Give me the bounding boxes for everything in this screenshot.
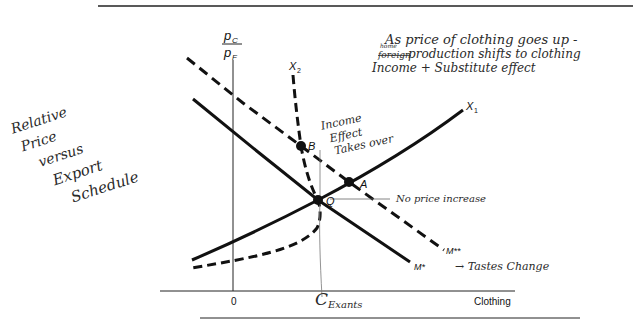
point-a — [344, 177, 354, 187]
svg-text:1: 1 — [474, 107, 478, 114]
y-axis-label: p C p F — [222, 28, 242, 62]
svg-text:C: C — [315, 289, 328, 309]
point-b — [296, 141, 306, 151]
point-a-label: A — [359, 178, 367, 190]
svg-text:Income + Substitute effect: Income + Substitute effect — [371, 61, 536, 75]
x2-label: X — [288, 60, 297, 72]
x2-curve — [192, 75, 320, 268]
svg-text:Exants: Exants — [327, 299, 363, 310]
x1-label: X — [465, 100, 474, 112]
top-handwritten-note: As price of clothing goes up - home fore… — [371, 32, 581, 75]
diagram-canvas: p C p F 0 Clothing B A Q X 2 X 1 M** M* … — [0, 0, 633, 330]
m-star-label: M* — [414, 262, 425, 272]
point-b-label: B — [308, 140, 315, 152]
point-q-label: Q — [326, 195, 335, 207]
svg-text:foreign: foreign — [377, 50, 411, 60]
x-axis-label: Clothing — [474, 296, 511, 307]
m-double-star-curve — [187, 58, 444, 250]
svg-text:home: home — [380, 42, 397, 49]
tastes-change-note: → Tastes Change — [455, 260, 550, 273]
svg-text:As price of clothing goes up -: As price of clothing goes up - — [384, 32, 577, 47]
svg-text:F: F — [232, 53, 238, 62]
no-price-increase-note: No price increase — [395, 193, 486, 204]
income-effect-note: Income Effect Takes over — [319, 106, 395, 160]
svg-text:2: 2 — [297, 67, 301, 74]
m-double-star-label: M** — [446, 246, 461, 256]
m-star-curve — [193, 99, 410, 262]
svg-text:p: p — [223, 45, 231, 60]
left-handwritten-note: Relative Price versus Export Schedule — [8, 89, 141, 218]
c-exants-label: C Exants — [315, 289, 363, 310]
svg-text:p: p — [223, 28, 231, 43]
svg-text:production shifts to clothing: production shifts to clothing — [408, 47, 581, 61]
origin-label: 0 — [231, 296, 237, 307]
c-exants-guide — [320, 150, 322, 297]
point-q — [313, 195, 323, 205]
